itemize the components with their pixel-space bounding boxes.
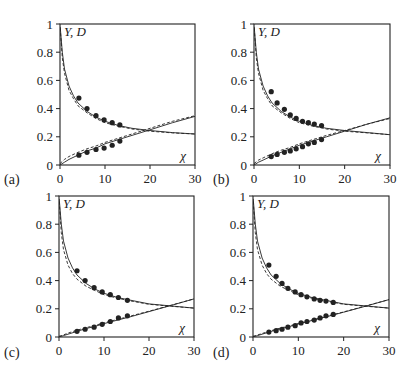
panel-label: (a) bbox=[4, 172, 20, 188]
panel-b: 00.20.40.60.810102030Y, Dχ(b) bbox=[213, 17, 397, 189]
y-tick-label: 0.6 bbox=[36, 245, 53, 260]
x-axis-title: χ bbox=[177, 320, 185, 335]
model-curve-solid bbox=[60, 116, 195, 165]
model-curve-dashed bbox=[253, 202, 389, 309]
x-axis-title: χ bbox=[373, 148, 381, 163]
plot-frame bbox=[60, 24, 195, 165]
x-tick-label: 20 bbox=[338, 171, 351, 186]
x-tick-label: 30 bbox=[189, 171, 202, 186]
y-axis-title: Y, D bbox=[63, 196, 86, 211]
data-point bbox=[269, 89, 274, 94]
y-tick-label: 0.6 bbox=[231, 73, 248, 88]
y-tick-label: 0.6 bbox=[230, 245, 247, 260]
x-tick-label: 0 bbox=[251, 171, 258, 186]
x-tick-label: 30 bbox=[188, 343, 201, 358]
y-tick-label: 1 bbox=[46, 189, 53, 204]
data-point bbox=[110, 143, 115, 148]
panel-label: (c) bbox=[4, 345, 20, 361]
y-tick-label: 0.6 bbox=[37, 73, 54, 88]
y-tick-label: 0 bbox=[47, 158, 54, 173]
panel-d: 00.20.40.60.810102030Y, Dχ(d) bbox=[213, 189, 396, 362]
x-tick-label: 0 bbox=[56, 343, 63, 358]
x-axis-title: χ bbox=[178, 148, 186, 163]
y-tick-label: 0.2 bbox=[231, 129, 247, 144]
data-point bbox=[84, 106, 89, 111]
y-tick-label: 0.2 bbox=[230, 301, 246, 316]
y-tick-label: 0 bbox=[241, 158, 248, 173]
figure: 00.20.40.60.810102030Y, Dχ(a)00.20.40.60… bbox=[0, 0, 418, 376]
x-tick-label: 10 bbox=[98, 343, 111, 358]
x-tick-label: 10 bbox=[292, 343, 305, 358]
x-tick-label: 30 bbox=[383, 343, 396, 358]
model-curve-solid bbox=[60, 27, 195, 134]
panel-label: (d) bbox=[213, 345, 230, 361]
model-curve-solid bbox=[254, 27, 390, 135]
x-tick-label: 30 bbox=[384, 171, 397, 186]
y-tick-label: 0 bbox=[240, 330, 247, 345]
plot-frame bbox=[254, 24, 390, 165]
model-curve-solid bbox=[253, 199, 389, 308]
y-tick-label: 0.4 bbox=[37, 101, 54, 116]
x-tick-label: 20 bbox=[143, 343, 156, 358]
x-tick-label: 10 bbox=[99, 171, 112, 186]
data-point bbox=[266, 262, 271, 267]
x-tick-label: 0 bbox=[250, 343, 257, 358]
model-curve-dashed bbox=[60, 28, 195, 134]
model-curve-dashed bbox=[59, 202, 194, 309]
data-point bbox=[102, 145, 107, 150]
model-curve-solid bbox=[59, 199, 194, 308]
data-point bbox=[76, 95, 81, 100]
x-tick-label: 20 bbox=[144, 171, 157, 186]
y-tick-label: 0.2 bbox=[36, 301, 52, 316]
x-tick-label: 0 bbox=[57, 171, 64, 186]
y-tick-label: 0.8 bbox=[36, 217, 52, 232]
data-point bbox=[275, 100, 280, 105]
model-curve-dashed bbox=[254, 28, 390, 135]
y-axis-title: Y, D bbox=[258, 24, 281, 39]
y-tick-label: 0.8 bbox=[230, 217, 246, 232]
model-curve-solid bbox=[253, 300, 389, 337]
y-tick-label: 0 bbox=[46, 330, 53, 345]
y-tick-label: 0.2 bbox=[37, 129, 53, 144]
y-tick-label: 1 bbox=[240, 189, 247, 204]
y-tick-label: 0.4 bbox=[231, 101, 248, 116]
y-tick-label: 1 bbox=[47, 17, 54, 32]
panel-label: (b) bbox=[213, 172, 230, 188]
x-tick-label: 10 bbox=[293, 171, 306, 186]
y-tick-label: 0.8 bbox=[37, 45, 53, 60]
y-axis-title: Y, D bbox=[257, 196, 280, 211]
panel-c: 00.20.40.60.810102030Y, Dχ(c) bbox=[4, 189, 201, 362]
data-point bbox=[282, 107, 287, 112]
y-tick-label: 0.8 bbox=[231, 45, 247, 60]
y-tick-label: 1 bbox=[241, 17, 248, 32]
y-tick-label: 0.4 bbox=[36, 273, 53, 288]
y-axis-title: Y, D bbox=[64, 24, 87, 39]
panel-a: 00.20.40.60.810102030Y, Dχ(a) bbox=[4, 17, 202, 189]
y-tick-label: 0.4 bbox=[230, 273, 247, 288]
x-tick-label: 20 bbox=[337, 343, 350, 358]
x-axis-title: χ bbox=[372, 320, 380, 335]
